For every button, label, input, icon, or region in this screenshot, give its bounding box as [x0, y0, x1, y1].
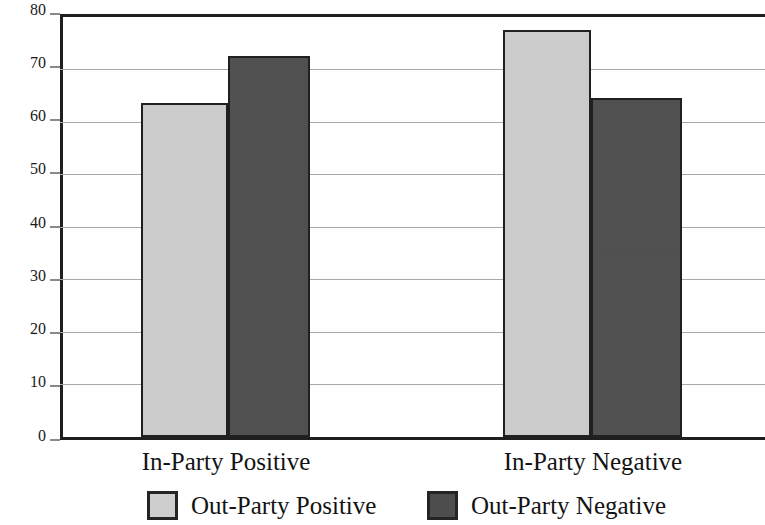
- y-tick-mark-60: [50, 119, 60, 121]
- y-tick-label-70: 70: [0, 54, 46, 72]
- bar-chart: 80 70 60 50 40 30 20 10 0: [0, 0, 765, 525]
- category-label-in-party-positive: In-Party Positive: [130, 448, 322, 475]
- legend-item-out-party-negative: Out-Party Negative: [427, 488, 666, 522]
- plot-top-border: [60, 14, 765, 17]
- y-tick-label-20: 20: [0, 320, 46, 338]
- y-tick-label-10: 10: [0, 373, 46, 391]
- y-tick-label-80: 80: [0, 1, 46, 19]
- bar-in-party-positive-out-party-positive: [141, 103, 228, 437]
- legend-swatch-dark-icon: [427, 491, 458, 520]
- plot-area: [60, 14, 765, 440]
- bar-in-party-negative-out-party-negative: [591, 98, 682, 437]
- y-tick-mark-80: [50, 13, 60, 15]
- y-tick-mark-50: [50, 172, 60, 174]
- y-tick-mark-0: [50, 439, 60, 441]
- bar-in-party-negative-out-party-positive: [503, 30, 591, 437]
- legend-swatch-light-icon: [147, 491, 178, 520]
- legend-label-out-party-positive: Out-Party Positive: [191, 492, 376, 519]
- bar-in-party-positive-out-party-negative: [228, 56, 310, 437]
- y-tick-label-60: 60: [0, 107, 46, 125]
- legend-label-out-party-negative: Out-Party Negative: [471, 492, 666, 519]
- y-tick-mark-40: [50, 226, 60, 228]
- y-tick-label-30: 30: [0, 267, 46, 285]
- y-tick-mark-70: [50, 66, 60, 68]
- category-label-in-party-negative: In-Party Negative: [493, 448, 693, 475]
- y-tick-mark-10: [50, 385, 60, 387]
- legend-item-out-party-positive: Out-Party Positive: [147, 488, 376, 522]
- plot-bottom-border: [60, 437, 765, 440]
- y-tick-mark-30: [50, 279, 60, 281]
- y-tick-label-40: 40: [0, 214, 46, 232]
- y-tick-mark-20: [50, 332, 60, 334]
- y-tick-label-50: 50: [0, 160, 46, 178]
- gridline-70: [60, 69, 765, 70]
- y-tick-label-0: 0: [0, 427, 46, 445]
- legend: Out-Party Positive Out-Party Negative: [0, 488, 765, 525]
